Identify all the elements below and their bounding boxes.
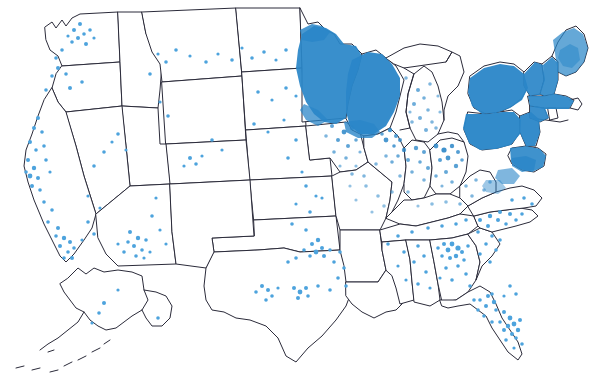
state-south-dakota <box>242 68 306 130</box>
state-north-dakota <box>236 8 302 72</box>
alaska-peninsula <box>40 312 84 350</box>
state-texas <box>204 248 352 362</box>
state-alaska <box>60 268 148 330</box>
alaska-inset <box>16 268 172 372</box>
aleutian-islands <box>16 340 110 372</box>
state-arkansas <box>340 230 386 282</box>
state-michigan-upper <box>386 44 452 68</box>
state-oregon <box>52 62 122 112</box>
state-rhode-island <box>548 108 558 120</box>
state-colorado <box>166 140 250 184</box>
dense-cluster-northeast <box>463 28 588 194</box>
us-dot-density-map <box>0 0 601 385</box>
state-wyoming <box>162 76 246 144</box>
map-canvas <box>0 0 601 385</box>
